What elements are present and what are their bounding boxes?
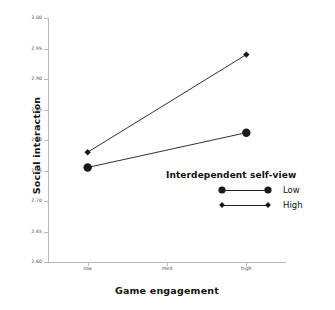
data-point-circle	[264, 186, 271, 193]
series-line-low	[88, 133, 247, 168]
y-tick-mark	[44, 201, 48, 202]
x-axis-title: Game engagement	[48, 285, 286, 296]
y-tick-label: 2.70	[16, 198, 42, 203]
line-chart-figure: Social interaction Game engagement 3.002…	[0, 0, 335, 310]
y-tick-mark	[44, 110, 48, 111]
data-point-circle	[242, 128, 250, 136]
x-tick-label: high	[226, 266, 266, 271]
legend: Interdependent self-view LowHigh	[160, 170, 308, 210]
y-tick-label: 2.90	[16, 76, 42, 81]
y-tick-mark	[44, 262, 48, 263]
legend-entry-low: Low	[160, 185, 308, 195]
y-tick-label: 3.00	[16, 15, 42, 20]
x-tick-label: low	[68, 266, 108, 271]
legend-label: High	[283, 200, 303, 210]
y-tick-mark	[44, 232, 48, 233]
legend-label: Low	[283, 185, 300, 195]
legend-entry-high: High	[160, 200, 308, 210]
data-point-circle	[83, 163, 91, 171]
legend-key-diamond-icon	[216, 200, 274, 210]
y-tick-label: 2.80	[16, 137, 42, 142]
y-tick-label: 2.65	[16, 229, 42, 234]
y-tick-mark	[44, 49, 48, 50]
y-tick-label: 2.60	[16, 259, 42, 264]
legend-key-circle-icon	[216, 185, 274, 195]
y-axis-line	[48, 18, 49, 263]
y-tick-mark	[44, 79, 48, 80]
legend-marker-layer	[216, 185, 274, 195]
data-point-diamond	[265, 202, 271, 208]
y-tick-mark	[44, 140, 48, 141]
legend-entries: LowHigh	[160, 185, 308, 210]
y-tick-label: 2.95	[16, 46, 42, 51]
data-point-diamond	[84, 149, 90, 155]
y-tick-mark	[44, 171, 48, 172]
data-point-circle	[218, 186, 225, 193]
y-tick-label: 2.75	[16, 168, 42, 173]
y-tick-mark	[44, 18, 48, 19]
data-point-diamond	[219, 202, 225, 208]
series-line-high	[88, 55, 247, 153]
data-point-diamond	[243, 51, 249, 57]
y-tick-label: 2.85	[16, 107, 42, 112]
legend-title: Interdependent self-view	[166, 170, 308, 180]
x-tick-label: med	[147, 266, 187, 271]
legend-marker-layer	[216, 200, 274, 210]
